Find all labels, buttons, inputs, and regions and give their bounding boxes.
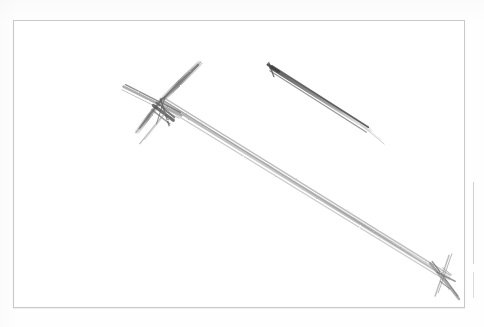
long-sword-drawing — [122, 62, 460, 299]
sword-blade — [159, 97, 450, 281]
right-margin-rule-secondary — [473, 272, 474, 298]
right-margin-rule — [473, 182, 474, 264]
short-blade-drawing — [268, 63, 384, 144]
scanned-page — [0, 0, 484, 327]
figure-caption — [22, 317, 442, 327]
pencil-sketch-illustration — [14, 21, 464, 307]
sword-pommel — [430, 253, 459, 299]
figure-frame — [13, 20, 465, 308]
sword-crossguard — [122, 62, 202, 144]
